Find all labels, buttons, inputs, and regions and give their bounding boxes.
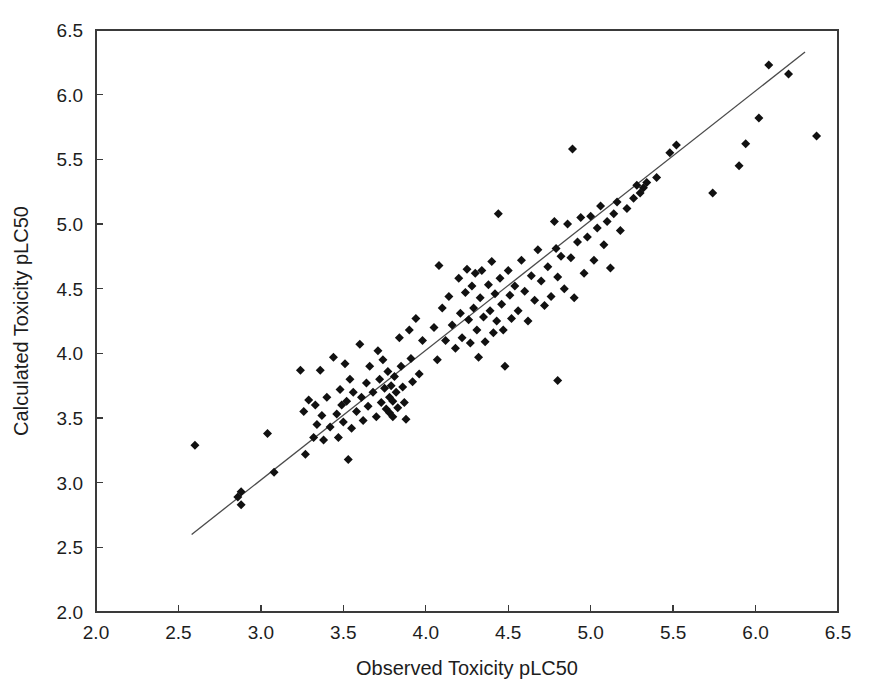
data-point-marker (365, 362, 374, 371)
data-point-marker (481, 337, 490, 346)
data-point-marker (613, 198, 622, 207)
data-point-marker (754, 113, 763, 122)
data-point-marker (377, 398, 386, 407)
x-tick-label-1: 2.5 (165, 622, 191, 643)
data-point-marker (603, 217, 612, 226)
data-point-marker (469, 304, 478, 313)
data-point-marker (514, 306, 523, 315)
data-point-marker (329, 353, 338, 362)
y-tick-label-7: 5.5 (57, 149, 83, 170)
data-points-group (190, 60, 821, 509)
data-point-marker (547, 292, 556, 301)
x-tick-label-3: 3.5 (330, 622, 356, 643)
data-point-marker (430, 323, 439, 332)
data-point-marker (405, 326, 414, 335)
data-point-marker (556, 252, 565, 261)
chart-canvas: 2.02.53.03.54.04.55.05.56.06.52.02.53.03… (0, 0, 872, 695)
x-tick-label-6: 5.0 (577, 622, 603, 643)
data-point-marker (741, 139, 750, 148)
x-tick-label-4: 4.0 (413, 622, 439, 643)
data-point-marker (304, 395, 313, 404)
data-point-marker (505, 291, 514, 300)
y-axis-title: Calculated Toxicity pLC50 (10, 206, 32, 436)
data-point-marker (458, 333, 467, 342)
data-point-marker (580, 269, 589, 278)
data-point-marker (589, 256, 598, 265)
data-point-marker (494, 209, 503, 218)
data-point-marker (322, 393, 331, 402)
data-point-marker (573, 238, 582, 247)
data-point-marker (583, 232, 592, 241)
data-point-marker (560, 284, 569, 293)
data-point-marker (517, 256, 526, 265)
data-point-marker (270, 468, 279, 477)
data-point-marker (190, 441, 199, 450)
data-point-marker (472, 326, 481, 335)
data-point-marker (299, 407, 308, 416)
data-point-marker (553, 376, 562, 385)
x-tick-label-2: 3.0 (248, 622, 274, 643)
x-tick-label-7: 5.5 (660, 622, 686, 643)
data-point-marker (438, 304, 447, 313)
data-point-marker (466, 338, 475, 347)
data-point-marker (463, 265, 472, 274)
y-tick-label-4: 4.0 (57, 343, 83, 364)
x-tick-label-8: 6.0 (742, 622, 768, 643)
data-point-marker (568, 144, 577, 153)
data-point-marker (415, 370, 424, 379)
data-point-marker (326, 423, 335, 432)
data-point-marker (311, 401, 320, 410)
data-point-marker (500, 362, 509, 371)
data-point-marker (764, 60, 773, 69)
data-point-marker (397, 362, 406, 371)
data-point-marker (352, 407, 361, 416)
x-tick-label-0: 2.0 (83, 622, 109, 643)
data-point-marker (296, 366, 305, 375)
data-point-marker (263, 429, 272, 438)
data-point-marker (533, 245, 542, 254)
data-point-marker (359, 416, 368, 425)
data-point-marker (378, 355, 387, 364)
data-point-marker (784, 69, 793, 78)
data-point-marker (418, 336, 427, 345)
data-point-marker (408, 377, 417, 386)
data-point-marker (398, 382, 407, 391)
data-point-marker (629, 194, 638, 203)
data-point-marker (319, 435, 328, 444)
data-point-marker (491, 289, 500, 298)
data-point-marker (355, 340, 364, 349)
data-point-marker (334, 433, 343, 442)
data-point-marker (616, 226, 625, 235)
data-point-marker (317, 411, 326, 420)
data-point-marker (476, 293, 485, 302)
data-point-marker (316, 366, 325, 375)
data-point-marker (495, 274, 504, 283)
data-point-marker (550, 217, 559, 226)
data-point-marker (451, 344, 460, 353)
data-point-marker (524, 317, 533, 326)
data-point-marker (812, 132, 821, 141)
data-point-marker (400, 398, 409, 407)
data-point-marker (454, 274, 463, 283)
data-point-marker (652, 173, 661, 182)
data-point-marker (406, 354, 415, 363)
y-tick-label-1: 2.5 (57, 537, 83, 558)
data-point-marker (672, 141, 681, 150)
data-point-marker (708, 188, 717, 197)
data-point-marker (467, 282, 476, 291)
data-point-marker (433, 355, 442, 364)
data-point-marker (563, 220, 572, 229)
data-point-marker (540, 301, 549, 310)
data-point-marker (357, 393, 366, 402)
data-point-marker (347, 424, 356, 433)
data-point-marker (456, 309, 465, 318)
data-point-marker (372, 412, 381, 421)
data-point-marker (499, 326, 508, 335)
data-point-marker (392, 388, 401, 397)
x-tick-label-5: 4.5 (495, 622, 521, 643)
data-point-marker (596, 201, 605, 210)
data-point-marker (395, 333, 404, 342)
data-point-marker (566, 253, 575, 262)
data-point-marker (484, 280, 493, 289)
data-point-marker (434, 261, 443, 270)
